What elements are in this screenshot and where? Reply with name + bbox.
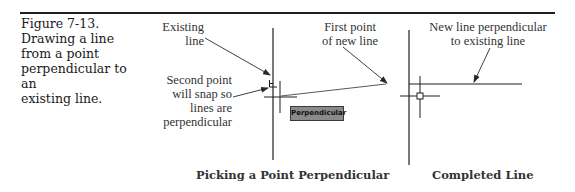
crosshair-cursor-icon — [264, 81, 297, 113]
rubber-band-line — [281, 84, 386, 96]
pickbox-icon — [417, 93, 423, 99]
callout-arrow-right — [474, 48, 490, 82]
callout-arrows-left — [205, 38, 387, 97]
drawing-canvas — [0, 0, 575, 192]
